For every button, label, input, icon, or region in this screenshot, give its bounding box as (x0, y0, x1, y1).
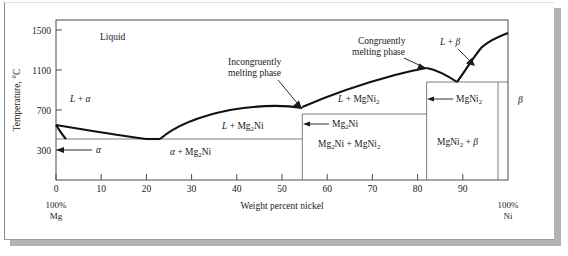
incongruently-melting-pointer (278, 80, 302, 109)
region-label-l-plus-beta: L + β (439, 37, 475, 66)
region-label-liquid: Liquid (100, 32, 126, 42)
x-tick-label-30: 30 (187, 184, 197, 194)
incongruently-melting-line1: Incongruently (228, 57, 282, 67)
y-tick-label-700: 700 (37, 106, 52, 116)
region-label-beta: β (517, 95, 523, 105)
svg-text:MgNi2 + β: MgNi2 + β (437, 137, 478, 148)
x-tick-label-60: 60 (322, 184, 332, 194)
alpha-pointer (56, 147, 92, 153)
x-tick-label-50: 50 (277, 184, 287, 194)
svg-text:Mg2Ni + MgNi2: Mg2Ni + MgNi2 (318, 139, 381, 150)
svg-text:L + MgNi2: L + MgNi2 (337, 94, 380, 105)
y-tick-label-1100: 1100 (32, 66, 51, 76)
y-tick-label-1500: 1500 (32, 26, 51, 36)
right-end-label-element: Ni (504, 211, 513, 221)
mg2ni-pointer (303, 122, 329, 127)
incongruently-melting-line2: melting phase (228, 68, 281, 78)
region-label-l-plus-alpha: L + α (69, 94, 91, 104)
x-tick-label-0: 0 (54, 184, 59, 194)
x-axis-title: Weight percent nickel (240, 201, 323, 211)
liquidus-beta-side (457, 33, 508, 82)
region-label-l-plus-mg2ni: L + Mg2Ni (221, 121, 264, 132)
x-tick-label-10: 10 (96, 184, 106, 194)
congruently-melting-line2: melting phase (352, 47, 405, 57)
congruently-melting-line1: Congruently (358, 36, 406, 46)
liquidus-mg-side (56, 125, 146, 139)
y-axis-title: Temperature, °C (12, 69, 22, 132)
region-label-alpha-mg2ni: α + Mg2Ni (170, 147, 212, 158)
svg-text:α: α (96, 145, 102, 155)
region-label-alpha: α (96, 145, 102, 155)
x-tick-label-80: 80 (413, 184, 423, 194)
liquidus-mgni2-right (427, 68, 457, 82)
region-label-l-plus-mgni2: L + MgNi2 (337, 94, 380, 105)
left-end-label-element: Mg (50, 211, 63, 221)
svg-text:α + Mg2Ni: α + Mg2Ni (170, 147, 212, 158)
svg-text:L + β: L + β (439, 37, 460, 47)
phase-diagram-figure: 1500 1100 700 300 Temperature, °C 0 10 2… (0, 0, 568, 256)
region-label-mgni2-beta: MgNi2 + β (437, 137, 478, 148)
svg-text:MgNi2: MgNi2 (456, 94, 483, 105)
svg-text:L + Mg2Ni: L + Mg2Ni (221, 121, 264, 132)
x-tick-label-70: 70 (368, 184, 378, 194)
region-label-mg2ni: Mg2Ni (303, 119, 358, 130)
annotation-congruently-melting-phase: Congruently melting phase (352, 36, 426, 69)
l-plus-beta-pointer (458, 49, 475, 66)
annotation-incongruently-melting-phase: Incongruently melting phase (228, 57, 302, 109)
x-axis-ticks (56, 174, 463, 180)
invariant-lines (56, 82, 508, 139)
svg-text:Mg2Ni: Mg2Ni (332, 119, 358, 130)
y-tick-label-300: 300 (37, 146, 52, 156)
y-axis-tick-labels: 1500 1100 700 300 (32, 26, 51, 156)
mgni2-pointer (427, 97, 453, 102)
congruently-melting-pointer (404, 58, 426, 69)
left-end-label: 100% Mg (46, 200, 68, 221)
svg-text:β: β (517, 95, 523, 105)
right-end-label-percent: 100% (498, 200, 520, 210)
region-label-mgni2: MgNi2 (427, 94, 483, 105)
x-tick-label-20: 20 (142, 184, 152, 194)
liquidus-curves (56, 33, 508, 139)
left-end-label-percent: 100% (46, 200, 68, 210)
x-axis-tick-labels: 0 10 20 30 40 50 60 70 80 90 (54, 184, 468, 194)
right-end-label: 100% Ni (498, 200, 520, 221)
svg-text:L + α: L + α (69, 94, 91, 104)
phase-diagram-plot: 1500 1100 700 300 Temperature, °C 0 10 2… (0, 0, 568, 256)
region-label-mg2ni-mgni2: Mg2Ni + MgNi2 (318, 139, 381, 150)
x-tick-label-90: 90 (458, 184, 468, 194)
x-tick-label-40: 40 (232, 184, 242, 194)
